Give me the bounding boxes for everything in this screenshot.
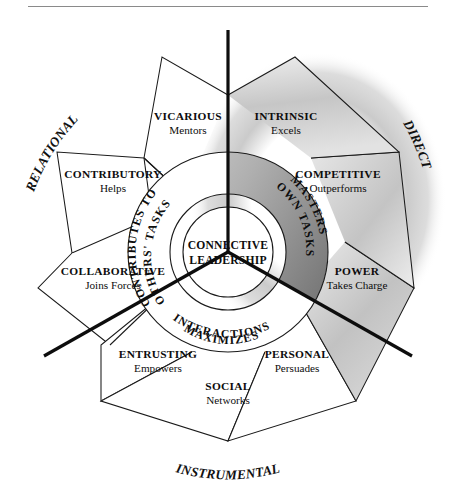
svg-text:Outperforms: Outperforms	[309, 182, 366, 194]
svg-text:CONNECTIVE: CONNECTIVE	[188, 239, 269, 252]
domain-label-instrumental: INSTRUMENTAL	[174, 460, 282, 482]
svg-text:Networks: Networks	[206, 394, 250, 406]
svg-text:CONTRIBUTORY: CONTRIBUTORY	[64, 168, 162, 180]
svg-text:SOCIAL: SOCIAL	[205, 380, 251, 392]
svg-text:ENTRUSTING: ENTRUSTING	[119, 348, 197, 360]
svg-text:COMPETITIVE: COMPETITIVE	[295, 168, 381, 180]
svg-text:Helps: Helps	[100, 182, 126, 194]
connective-leadership-diagram: VICARIOUS Mentors CONTRIBUTORY Helps COL…	[0, 0, 452, 488]
svg-text:Persuades: Persuades	[275, 362, 320, 374]
svg-text:Excels: Excels	[271, 124, 301, 136]
svg-text:VICARIOUS: VICARIOUS	[154, 110, 222, 122]
svg-text:Mentors: Mentors	[169, 124, 206, 136]
svg-text:PERSONAL: PERSONAL	[265, 348, 330, 360]
svg-text:Empowers: Empowers	[134, 362, 182, 374]
figure-canvas: VICARIOUS Mentors CONTRIBUTORY Helps COL…	[0, 0, 452, 488]
svg-text:INTRINSIC: INTRINSIC	[255, 110, 318, 122]
svg-text:Takes Charge: Takes Charge	[327, 279, 388, 291]
svg-text:LEADERSHIP: LEADERSHIP	[189, 254, 266, 267]
svg-text:POWER: POWER	[335, 265, 380, 277]
